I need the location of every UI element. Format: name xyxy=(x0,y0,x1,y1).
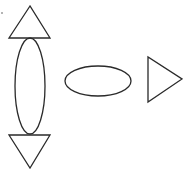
shape-diagram xyxy=(0,0,183,169)
vertical-ellipse xyxy=(15,38,45,134)
stray-dot xyxy=(1,12,3,14)
horizontal-ellipse xyxy=(65,66,131,96)
up-triangle xyxy=(9,6,50,38)
right-triangle xyxy=(148,57,182,102)
down-triangle xyxy=(9,135,50,168)
